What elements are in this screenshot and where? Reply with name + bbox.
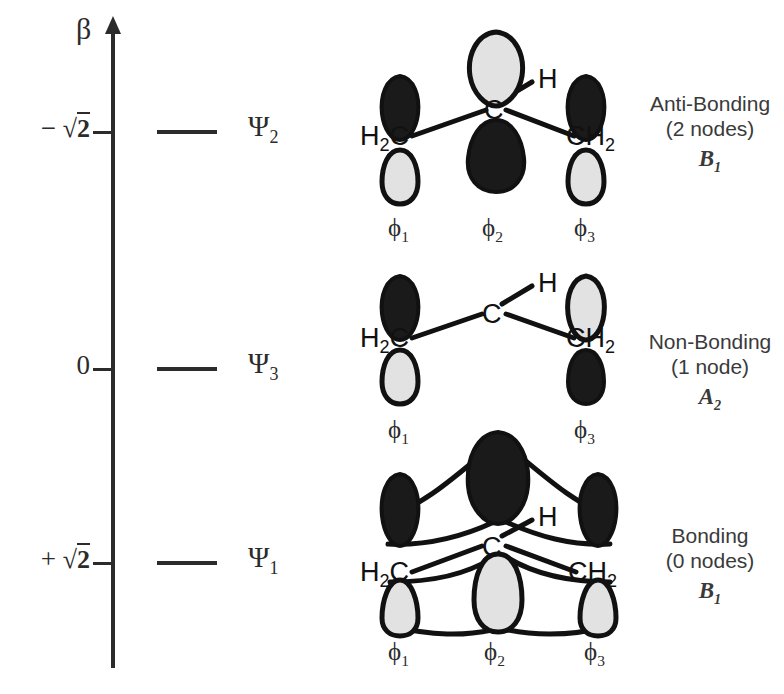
nonbonding-orbital-svg: H2C C H CH2 [360,266,630,416]
atom-label-center-C: C [482,532,502,562]
description-symmetry: A2 [636,380,784,413]
energy-level-label-psi1: Ψ1 [248,541,278,579]
phi-label-1: ϕ1 [388,214,409,246]
description-antibonding: Anti-Bonding (2 nodes) B1 [636,92,784,175]
axis-label-beta: β [76,12,91,46]
description-nodes: (1 node) [636,355,784,380]
psi-glyph: Ψ [248,541,269,573]
lobe-phi2-top-dark [468,432,529,524]
energy-level-line-psi2 [157,130,217,134]
bonding-orbital-svg: H2C C H CH2 [360,430,640,640]
lobe-phi2-bottom-dark [468,120,524,192]
minus-sign: − [41,113,56,143]
description-type: Anti-Bonding [636,92,784,117]
description-symmetry: B1 [636,574,784,607]
atom-label-center-C: C [484,95,504,125]
phi-label-3: ϕ3 [584,638,605,670]
energy-axis-line [111,28,115,668]
description-symmetry: B1 [636,142,784,175]
atom-label-hydrogen: H [538,268,558,298]
phi-label-2: ϕ2 [484,638,505,670]
description-bonding: Bonding (0 nodes) B1 [636,524,784,607]
lobe-phi3-top-dark [580,474,617,546]
lobe-phi1-bottom-light [382,350,418,404]
phi-label-2: ϕ2 [482,214,503,246]
orbital-diagram-nonbonding: H2C C H CH2 ϕ1 ϕ3 [360,266,630,416]
plus-sign: + [41,544,56,574]
lobe-phi3-bottom-light [568,150,604,204]
axis-tick-label-plus-sqrt2: + √2 [0,544,90,575]
description-nodes: (0 nodes) [636,549,784,574]
lobe-phi1-bottom-light [382,150,418,204]
description-nonbonding: Non-Bonding (1 node) A2 [636,330,784,413]
atom-label-hydrogen: H [538,64,558,94]
psi-glyph: Ψ [248,347,269,379]
psi-subscript: 3 [269,364,278,384]
phi-label-3: ϕ3 [574,214,595,246]
description-type: Non-Bonding [636,330,784,355]
psi-subscript: 2 [269,127,278,147]
orbital-diagram-antibonding: H2C C H CH2 ϕ1 ϕ2 ϕ3 [360,14,630,214]
sqrt-glyph: √2 [63,114,90,143]
description-type: Bonding [636,524,784,549]
atom-label-right-CH2: CH2 [566,121,615,155]
axis-tick-label-zero: 0 [0,350,90,381]
atom-label-hydrogen: H [538,502,558,532]
axis-tick-plus-sqrt2 [93,562,115,565]
lobe-phi3-bottom-dark [568,350,604,404]
sqrt-glyph: √2 [63,545,90,574]
energy-level-line-psi1 [157,561,217,565]
axis-tick-zero [93,368,115,371]
energy-level-label-psi3: Ψ3 [248,347,278,385]
lobe-phi2-bottom-light [474,554,522,632]
psi-subscript: 1 [269,558,278,578]
allyl-mo-diagram: β − √2 0 + √2 Ψ2 Ψ3 Ψ1 [0,0,784,694]
psi-glyph: Ψ [248,110,269,142]
energy-level-line-psi3 [157,367,217,371]
atom-label-right-CH2: CH2 [568,557,617,591]
atom-label-right-CH2: CH2 [566,323,615,357]
energy-level-label-psi2: Ψ2 [248,110,278,148]
atom-label-left-H2C: H2C [360,557,409,591]
phi-label-1: ϕ1 [388,638,409,670]
axis-tick-label-minus-sqrt2: − √2 [0,113,90,144]
description-nodes: (2 nodes) [636,117,784,142]
lobe-phi1-top-dark [382,474,419,546]
axis-tick-minus-sqrt2 [93,131,115,134]
orbital-diagram-bonding: H2C C H CH2 ϕ1 ϕ2 ϕ3 [360,430,630,640]
atom-label-center-C: C [482,299,502,329]
zero-glyph: 0 [77,350,91,380]
antibonding-orbital-svg: H2C C H CH2 [360,14,630,214]
